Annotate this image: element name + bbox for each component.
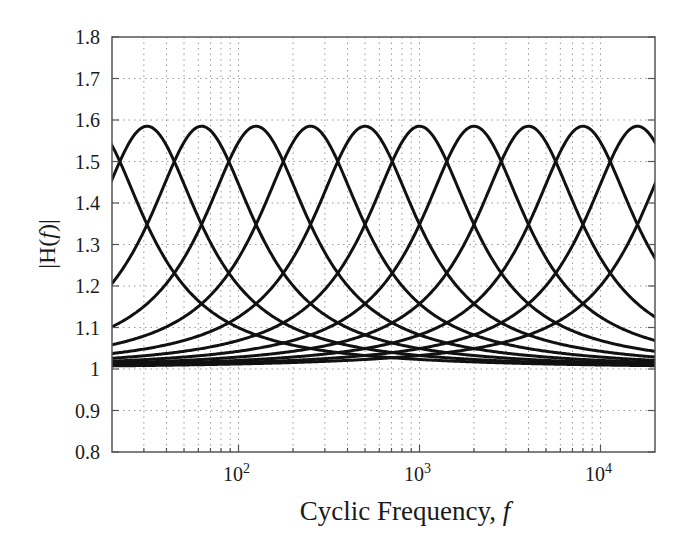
response-curve	[103, 132, 664, 366]
y-axis-label: |H(f)|	[34, 219, 60, 269]
y-tick-label: 1	[90, 358, 100, 380]
y-tick-label: 1.7	[75, 68, 100, 90]
y-tick-label: 1.5	[75, 151, 100, 173]
y-tick-label: 1.4	[75, 192, 100, 214]
response-curve	[103, 126, 664, 357]
y-tick-label: 0.9	[75, 400, 100, 422]
x-axis-label: Cyclic Frequency, f	[300, 496, 514, 526]
response-curves	[103, 126, 664, 366]
response-curve	[103, 126, 664, 365]
x-tick-label: 102	[223, 461, 250, 485]
y-tick-label: 1.8	[75, 26, 100, 48]
y-tick-label: 1.2	[75, 275, 100, 297]
y-tick-label: 1.1	[75, 317, 100, 339]
y-tick-label: 1.6	[75, 109, 100, 131]
y-tick-labels: 0.80.911.11.21.31.41.51.61.71.8	[75, 26, 100, 463]
y-tick-label: 1.3	[75, 234, 100, 256]
x-tick-labels: 102103104	[223, 461, 612, 485]
response-curve	[103, 126, 664, 365]
chart: 0.80.911.11.21.31.41.51.61.71.8 10210310…	[0, 0, 688, 543]
y-tick-label: 0.8	[75, 441, 100, 463]
x-tick-label: 104	[585, 461, 612, 485]
x-tick-label: 103	[404, 461, 431, 485]
